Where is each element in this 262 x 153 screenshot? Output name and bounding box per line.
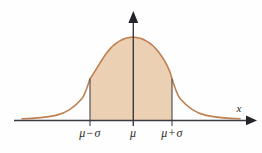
x-axis-arrowhead-icon [246, 116, 257, 126]
shaded-region-one-sigma [90, 37, 172, 120]
figure-canvas [0, 0, 262, 153]
y-axis-arrowhead-icon [128, 11, 138, 23]
normal-distribution-figure: μ−σ μ μ+σ x [0, 0, 262, 153]
